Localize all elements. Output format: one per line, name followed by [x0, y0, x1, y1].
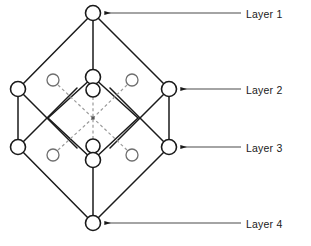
node-layer-3-inner-bottom[interactable] [86, 153, 101, 168]
diagram-canvas [0, 0, 311, 246]
layer-label-3: Layer 3 [246, 143, 282, 154]
node-layer-2-left[interactable] [11, 82, 26, 97]
node-layer-3-inner-mid[interactable] [86, 139, 100, 153]
center-junction-marker [92, 117, 95, 120]
node-layer-3-left[interactable] [11, 140, 26, 155]
node-layer-2-right[interactable] [162, 82, 177, 97]
node-layer-4-bottom[interactable] [86, 216, 101, 231]
node-layer-2-small-left[interactable] [47, 74, 59, 86]
node-layer-2-small-right[interactable] [126, 74, 138, 86]
node-layer-1-top[interactable] [86, 6, 101, 21]
node-layer-3-small-left[interactable] [47, 149, 59, 161]
layered-network-diagram: Layer 1 Layer 2 Layer 3 Layer 4 [0, 0, 311, 246]
node-layer-3-small-right[interactable] [126, 149, 138, 161]
node-layer-3-right[interactable] [162, 140, 177, 155]
layer-label-2: Layer 2 [246, 85, 282, 96]
layer-label-4: Layer 4 [246, 219, 282, 230]
node-layer-2-inner-mid[interactable] [86, 83, 100, 97]
layer-label-1: Layer 1 [246, 9, 282, 20]
